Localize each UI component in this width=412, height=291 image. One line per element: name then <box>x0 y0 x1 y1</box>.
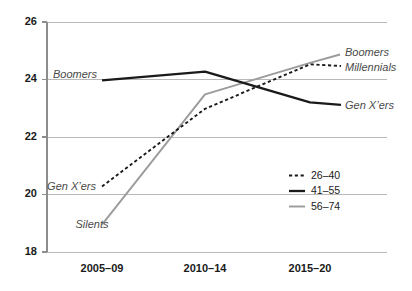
chart-container: 26 24 22 20 18 2005–09 2010–14 2015–20 B… <box>0 0 412 291</box>
y-tick-label-20: 20 <box>25 187 37 199</box>
series-annotation-boomers-left: Boomers <box>53 68 98 80</box>
y-tick-label-24: 24 <box>25 72 38 84</box>
x-tick-label-2005-09: 2005–09 <box>81 262 124 274</box>
y-tick-label-22: 22 <box>25 130 37 142</box>
legend: 26–40 41–55 56–74 <box>289 169 340 212</box>
series-annotation-boomers-right: Boomers <box>345 46 390 58</box>
series-line-56-74 <box>102 55 340 225</box>
legend-label-56-74: 56–74 <box>311 200 340 212</box>
x-tick-labels: 2005–09 2010–14 2015–20 <box>81 262 332 274</box>
series-line-26-40 <box>102 64 341 186</box>
series-annotation-millennials-right: Millennials <box>345 61 397 73</box>
line-chart: 26 24 22 20 18 2005–09 2010–14 2015–20 B… <box>0 0 412 291</box>
y-tick-labels: 26 24 22 20 18 <box>25 15 38 257</box>
y-tick-marks <box>42 22 47 252</box>
series-line-41-55 <box>102 72 341 105</box>
legend-label-41-55: 41–55 <box>311 184 340 196</box>
series-annotation-genxers-left: Gen X’ers <box>47 180 96 192</box>
series-annotation-genxers-right: Gen X’ers <box>345 99 394 111</box>
y-tick-label-26: 26 <box>25 15 37 27</box>
series-annotation-silents-left: Silents <box>75 218 109 230</box>
y-tick-label-18: 18 <box>25 245 37 257</box>
x-tick-label-2015-20: 2015–20 <box>289 262 332 274</box>
x-tick-label-2010-14: 2010–14 <box>184 262 228 274</box>
legend-label-26-40: 26–40 <box>311 169 340 181</box>
